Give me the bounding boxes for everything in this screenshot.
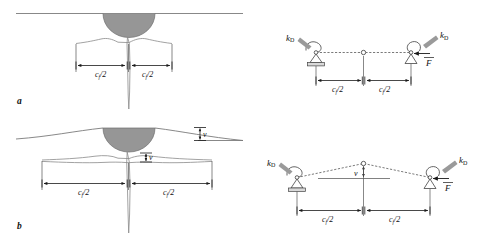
displacement-label-v-crack-b: v <box>149 153 153 162</box>
support-right-b <box>424 176 436 189</box>
applied-force-a: F <box>414 54 434 69</box>
support-left-a <box>308 51 325 66</box>
displacement-label-v-apex-b: v <box>354 169 358 178</box>
panel-a-right-view: kD kD F cf/2 <box>286 30 449 95</box>
dimension-a-left: cf/2 <box>76 62 127 80</box>
model-dimension-label-b-right: cf/2 <box>389 215 400 225</box>
dimension-label-b-left: cf/2 <box>78 188 89 198</box>
rotational-spring-right-a <box>407 36 438 53</box>
support-right-a <box>405 51 417 64</box>
model-dimension-label-b-left: cf/2 <box>322 215 333 225</box>
dimension-label-a-right: cf/2 <box>142 70 153 80</box>
panel-b-left-view: v v cf/2 cf/2 <box>16 128 243 234</box>
dimension-label-b-right: cf/2 <box>163 188 174 198</box>
model-dimension-b-right: cf/2 <box>365 207 430 225</box>
figure-root: cf/2 cf/2 a <box>0 0 491 245</box>
specimen-surface-line-b <box>16 128 103 139</box>
spring-label-left-a: kD <box>286 33 295 44</box>
displacement-label-v-surface-b: v <box>203 130 207 139</box>
indenter-impression-a <box>103 14 155 38</box>
center-hinge-a <box>361 50 365 54</box>
model-dimension-label-a-left: cf/2 <box>332 85 343 95</box>
force-label-a: F <box>425 58 432 68</box>
lateral-crack-profile-a <box>76 38 172 43</box>
panel-label-a: a <box>17 96 22 106</box>
model-dimension-a-left: cf/2 <box>316 77 362 95</box>
figure-canvas: cf/2 cf/2 a <box>0 0 491 245</box>
panel-b-right-view: v kD kD <box>267 155 468 225</box>
spring-label-right-a: kD <box>440 30 449 41</box>
displacement-v-crack-b: v <box>140 153 153 162</box>
applied-force-b: F <box>433 179 453 194</box>
dimension-b-right: cf/2 <box>130 180 212 198</box>
panel-label-b: b <box>17 221 22 231</box>
rotational-spring-right-b <box>426 161 457 178</box>
model-dimension-label-a-right: cf/2 <box>379 85 390 95</box>
indenter-impression-b <box>103 128 155 152</box>
specimen-surface-line-b-right <box>155 128 243 141</box>
rotational-spring-left-a <box>298 38 322 53</box>
dimension-label-a-left: cf/2 <box>95 70 106 80</box>
model-dimension-b-left: cf/2 <box>297 207 362 225</box>
force-label-b: F <box>444 183 451 193</box>
center-hinge-b <box>361 161 365 165</box>
displacement-v-apex-b: v <box>354 167 364 179</box>
rotational-spring-left-b <box>279 163 303 178</box>
dimension-b-left: cf/2 <box>42 180 127 198</box>
support-left-b <box>289 176 306 192</box>
model-dimension-a-right: cf/2 <box>365 77 411 95</box>
spring-label-left-b: kD <box>267 158 276 169</box>
dimension-a-right: cf/2 <box>130 62 172 80</box>
panel-a-left-view: cf/2 cf/2 a <box>16 14 243 110</box>
spring-label-right-b: kD <box>459 155 468 166</box>
